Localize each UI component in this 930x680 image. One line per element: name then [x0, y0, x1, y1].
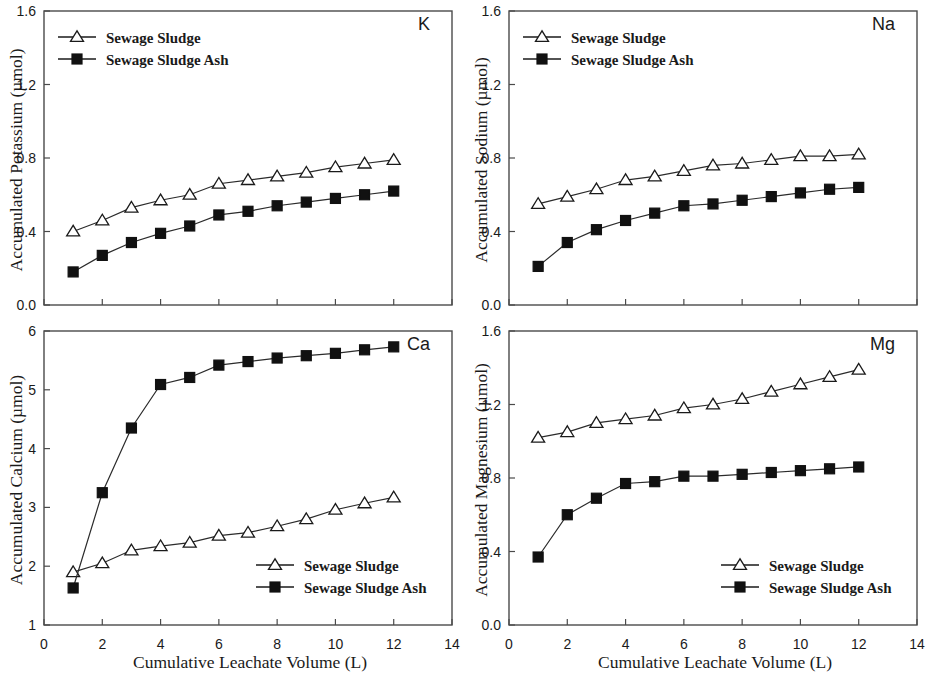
panel-na-ytick-2: 0.8 [482, 150, 502, 166]
panel-na-point-1-8 [766, 192, 776, 202]
panel-na-svg: Accumulated Sodium (µmol) 0.00.40.81.21.… [465, 0, 930, 340]
panel-ca-line-1 [73, 347, 394, 588]
panel-k-point-0-4 [183, 189, 196, 200]
panel-ca-legend: Sewage SludgeSewage Sludge Ash [256, 558, 427, 596]
panel-ca-ytick-labels: 123456 [28, 323, 36, 633]
panel-mg-ytick-2: 0.8 [482, 470, 502, 486]
panel-mg-ytick-0: 0.0 [482, 617, 502, 633]
panel-mg-xtick-labels: 02468101214 [505, 636, 925, 652]
panel-ca-point-1-6 [243, 357, 253, 367]
panel-na: Accumulated Sodium (µmol) 0.00.40.81.21.… [465, 0, 930, 340]
panel-na-ytick-labels: 0.00.40.81.21.6 [482, 3, 502, 313]
panel-na-point-1-11 [854, 182, 864, 192]
panel-k-legend-label-1: Sewage Sludge Ash [106, 52, 229, 68]
panel-mg-point-1-11 [854, 462, 864, 472]
panel-ca-xtick-1: 2 [98, 636, 106, 652]
panel-ca-ytick-4: 5 [28, 382, 36, 398]
panel-k-point-0-1 [96, 214, 109, 225]
panel-mg: Accumulated Magnesium (µmol) 0.00.40.81.… [465, 320, 930, 680]
panel-na-legend-label-0: Sewage Sludge [571, 30, 666, 46]
panel-ca-legend-label-0: Sewage Sludge [304, 558, 399, 574]
panel-mg-point-1-7 [737, 469, 747, 479]
panel-k-legend-label-0: Sewage Sludge [106, 30, 201, 46]
panel-na-line-0 [538, 154, 859, 204]
panel-na-point-1-5 [679, 201, 689, 211]
panel-na-point-0-11 [852, 148, 865, 159]
panel-ca-ylabel-group: Accumulated Calcium (µmol) [6, 375, 26, 585]
panel-mg-xtick-6: 12 [851, 636, 867, 652]
panel-mg-xlabel: Cumulative Leachate Volume (L) [598, 652, 832, 672]
panel-ca-point-1-5 [214, 360, 224, 370]
panel-mg-xtick-2: 4 [622, 636, 630, 652]
panel-mg-point-1-9 [795, 466, 805, 476]
panel-k-ytick-4: 1.6 [17, 3, 37, 19]
panel-na-ytick-4: 1.6 [482, 3, 502, 19]
panel-mg-series [532, 363, 866, 562]
panel-k-point-1-3 [156, 228, 166, 238]
panel-mg-ytick-3: 1.2 [482, 397, 502, 413]
panel-k-point-1-10 [360, 190, 370, 200]
panel-ca-ytick-2: 3 [28, 499, 36, 515]
panel-mg-legend-label-0: Sewage Sludge [769, 558, 864, 574]
panel-mg-xtick-3: 6 [680, 636, 688, 652]
panel-mg-tag: Mg [870, 334, 895, 354]
panel-ca-svg: Accumulated Calcium (µmol) 123456 024681… [0, 320, 465, 680]
panel-na-legend-label-1: Sewage Sludge Ash [571, 52, 694, 68]
panel-k-line-1 [73, 191, 394, 272]
panel-mg-point-1-8 [766, 467, 776, 477]
panel-mg-legend: Sewage SludgeSewage Sludge Ash [721, 558, 892, 596]
panel-ca-point-1-3 [156, 380, 166, 390]
panel-k-ytick-2: 0.8 [17, 150, 37, 166]
panel-k: Accumulated Potassium (µmol) 0.00.40.81.… [0, 0, 465, 340]
panel-ca-legend-marker-1 [270, 582, 280, 592]
panel-ca-xtick-0: 0 [40, 636, 48, 652]
panel-k-point-1-4 [185, 221, 195, 231]
panel-ca-xtick-6: 12 [386, 636, 402, 652]
panel-na-legend: Sewage SludgeSewage Sludge Ash [523, 30, 694, 68]
panel-mg-point-1-0 [533, 552, 543, 562]
panel-ca: Accumulated Calcium (µmol) 123456 024681… [0, 320, 465, 680]
panel-mg-xtick-1: 2 [563, 636, 571, 652]
panel-na-point-1-0 [533, 261, 543, 271]
panel-mg-legend-label-1: Sewage Sludge Ash [769, 580, 892, 596]
panel-k-point-1-6 [243, 206, 253, 216]
panel-mg-ytick-1: 0.4 [482, 544, 502, 560]
panel-mg-xtick-4: 8 [738, 636, 746, 652]
panel-mg-line-0 [538, 370, 859, 438]
panel-ca-xlabel: Cumulative Leachate Volume (L) [133, 652, 367, 672]
panel-ca-ytick-0: 1 [28, 617, 36, 633]
panel-mg-legend-marker-1 [735, 582, 745, 592]
figure-multi-panel-leachate: Accumulated Potassium (µmol) 0.00.40.81.… [0, 0, 930, 680]
panel-mg-point-0-11 [852, 363, 865, 374]
panel-ca-xtick-7: 14 [444, 636, 460, 652]
panel-na-point-1-7 [737, 195, 747, 205]
panel-ca-point-1-10 [360, 345, 370, 355]
panel-na-point-1-3 [621, 215, 631, 225]
panel-na-legend-marker-1 [537, 54, 547, 64]
panel-k-point-1-2 [126, 238, 136, 248]
panel-mg-point-1-3 [621, 479, 631, 489]
panel-na-tag: Na [872, 14, 896, 34]
panel-k-line-0 [73, 160, 394, 232]
panel-k-point-1-9 [330, 193, 340, 203]
panel-k-series [67, 154, 401, 277]
panel-ca-point-1-7 [272, 353, 282, 363]
panel-k-point-1-1 [97, 250, 107, 260]
panel-ca-ytick-5: 6 [28, 323, 36, 339]
panel-k-point-1-11 [389, 186, 399, 196]
panel-k-point-1-7 [272, 201, 282, 211]
panel-ca-series [67, 342, 401, 593]
panel-k-ytick-0: 0.0 [17, 297, 37, 313]
panel-ca-xtick-5: 10 [328, 636, 344, 652]
panel-ca-point-1-9 [330, 348, 340, 358]
panel-ca-point-1-8 [301, 351, 311, 361]
panel-k-tag: K [418, 14, 430, 34]
panel-k-point-1-5 [214, 210, 224, 220]
panel-na-line-1 [538, 187, 859, 266]
panel-ca-xtick-3: 6 [215, 636, 223, 652]
panel-ca-point-1-2 [126, 423, 136, 433]
panel-mg-point-1-6 [708, 471, 718, 481]
panel-ca-point-1-1 [97, 488, 107, 498]
panel-mg-ytick-4: 1.6 [482, 323, 502, 339]
panel-k-legend-marker-0 [70, 31, 83, 42]
